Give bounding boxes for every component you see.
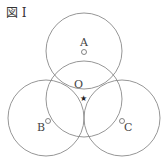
label-o: O	[74, 78, 83, 91]
venn-diagram: A O ★ B C	[0, 0, 165, 167]
circle-c	[84, 80, 160, 156]
label-a: A	[79, 36, 89, 49]
label-b: B	[37, 121, 45, 134]
star-icon: ★	[80, 94, 87, 103]
point-a-marker	[82, 50, 87, 55]
label-c: C	[124, 121, 132, 134]
point-b-marker	[46, 119, 51, 124]
circle-b	[8, 80, 84, 156]
